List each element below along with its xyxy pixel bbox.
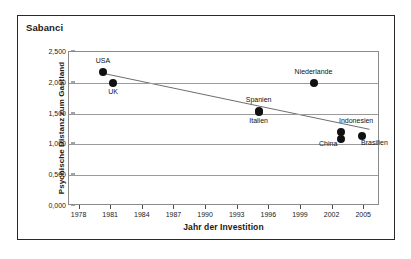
y-tick-label: 2,000: [48, 78, 66, 85]
x-tick-label: 1987: [166, 211, 182, 218]
x-tick-mark: [300, 205, 301, 209]
x-tick-mark: [237, 205, 238, 209]
x-tick-mark: [205, 205, 206, 209]
data-point: [337, 135, 345, 143]
y-tick-label: 2,500: [48, 48, 66, 55]
x-tick-mark: [268, 205, 269, 209]
x-tick-label: 1978: [71, 211, 87, 218]
x-tick-label: 1996: [261, 211, 277, 218]
chart-title: Sabanci: [26, 22, 63, 33]
data-point-label: UK: [108, 88, 118, 95]
data-point: [99, 68, 107, 76]
x-tick-mark: [110, 205, 111, 209]
gridline: [69, 175, 378, 176]
gridline: [69, 114, 378, 115]
x-tick-label: 2002: [324, 211, 340, 218]
y-tick-label: 1,000: [48, 140, 66, 147]
data-point-label: Indonesien: [339, 117, 373, 124]
x-tick-label: 1993: [229, 211, 245, 218]
chart-figure: Sabanci Psychische Distanz zum Gastland …: [17, 15, 395, 240]
x-tick-label: 1984: [134, 211, 150, 218]
data-point: [255, 108, 263, 116]
y-axis-ticks: 0,0000,5001,0001,5002,0002,500: [26, 51, 66, 205]
data-point-label: Niederlande: [295, 68, 333, 75]
data-point-label: China: [319, 140, 337, 147]
trendline: [69, 52, 380, 206]
data-point-label: Spanien: [246, 96, 272, 103]
y-tick-label: 0,000: [48, 202, 66, 209]
x-tick-label: 1981: [102, 211, 118, 218]
y-tick-label: 0,500: [48, 171, 66, 178]
x-tick-mark: [363, 205, 364, 209]
x-tick-label: 1999: [292, 211, 308, 218]
x-tick-label: 2005: [355, 211, 371, 218]
data-point: [310, 79, 318, 87]
plot-area: USAUKSpanienItalienNiederlandeIndonesien…: [68, 51, 379, 205]
data-point: [109, 79, 117, 87]
x-axis-title: Jahr der Investition: [68, 222, 379, 232]
x-tick-mark: [142, 205, 143, 209]
x-tick-mark: [332, 205, 333, 209]
data-point-label: USA: [96, 57, 110, 64]
x-tick-label: 1990: [197, 211, 213, 218]
data-point-label: Italien: [249, 117, 268, 124]
data-point-label: Brasilien: [361, 139, 388, 146]
y-tick-label: 1,500: [48, 109, 66, 116]
x-tick-mark: [79, 205, 80, 209]
x-tick-mark: [173, 205, 174, 209]
